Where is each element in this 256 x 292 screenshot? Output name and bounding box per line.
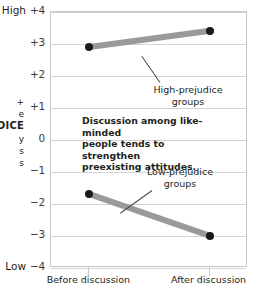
data-point [85,190,93,198]
chart-annotation-line-2: people tends to strengthen [82,138,212,161]
y-tick-label: −1 [28,164,45,176]
y-axis-title-line-6: s [0,157,24,169]
chart-annotation-line-1: Discussion among like-minded [82,115,212,138]
series-band-low-prejudice [88,192,210,239]
y-tick-label: +4 [28,4,45,16]
series-label-high-prejudice-line-1: High-prejudice [140,84,236,96]
y-tick-label: +2 [28,68,45,80]
gridline [51,76,246,77]
y-tick-label: +1 [28,100,45,112]
axis-label-high: High [0,4,26,16]
series-label-low-prejudice-line-2: groups [132,178,228,190]
data-point [206,232,214,240]
data-point [85,43,93,51]
series-label-high-prejudice-line-2: groups [140,96,236,108]
chart-annotation-line-3: preexisting attitudes. [82,161,212,173]
y-axis-title-line-1: + [0,96,24,108]
data-point [206,27,214,35]
chart-annotation: Discussion among like-minded people tend… [82,115,212,173]
y-tick-label: +3 [28,36,45,48]
gridline [51,44,246,45]
x-tick-label: Before discussion [47,274,130,285]
y-axis-title: + e JUDICE y s s [0,96,24,169]
gridline [51,268,246,269]
gridline [51,12,246,13]
y-tick-label: −2 [28,196,45,208]
y-tick-label: 0 [28,132,45,144]
y-axis-title-line-2: e [0,108,24,120]
gridline [51,236,246,237]
y-axis-title-line-4: y [0,133,24,145]
series-band-high-prejudice [89,28,210,50]
y-axis-title-line-5: s [0,145,24,157]
x-tick-label: After discussion [171,274,246,285]
gridline [51,108,246,109]
y-tick-label: −3 [28,228,45,240]
gridline [51,204,246,205]
series-label-high-prejudice: High-prejudice groups [140,84,236,107]
y-tick-label: −4 [28,260,45,272]
axis-label-low: Low [0,260,26,272]
y-axis-title-strong: JUDICE [0,120,24,132]
